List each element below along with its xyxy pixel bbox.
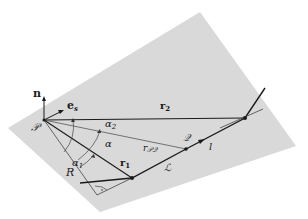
diagram-canvas: n es 𝒫 r2 α2 α α1 r1 r𝒫𝒬 R 𝒬 ℒ l <box>0 0 308 219</box>
label-R: R <box>65 166 74 179</box>
label-L: ℒ <box>164 162 172 173</box>
normal-arrowhead-icon <box>42 96 46 101</box>
point-Q <box>184 147 188 151</box>
point-r1-end <box>130 176 134 180</box>
label-n: n <box>33 87 41 100</box>
label-alpha: α <box>105 138 112 149</box>
point-P <box>43 119 46 122</box>
point-r2-end <box>243 116 247 120</box>
label-l: l <box>209 141 212 152</box>
plane <box>8 12 296 212</box>
right-angle-dot <box>101 189 103 191</box>
